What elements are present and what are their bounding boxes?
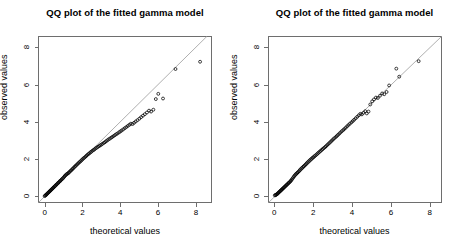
y-tick-label: 8 xyxy=(22,45,31,49)
y-tick-label: 0 xyxy=(22,194,31,198)
x-tick-label: 6 xyxy=(156,208,160,217)
x-tick-mark xyxy=(45,203,46,207)
y-tick-label: 0 xyxy=(251,194,260,198)
x-tick-label: 0 xyxy=(42,208,46,217)
y-tick-mark xyxy=(35,47,39,48)
x-tick-mark xyxy=(120,203,121,207)
data-point xyxy=(174,68,177,71)
y-tick-mark xyxy=(35,159,39,160)
x-tick-mark xyxy=(196,203,197,207)
x-tick-label: 8 xyxy=(194,208,198,217)
data-point xyxy=(394,67,397,70)
plot-area-left xyxy=(38,36,212,203)
y-tick-mark xyxy=(35,196,39,197)
data-point xyxy=(154,98,157,101)
x-tick-mark xyxy=(391,203,392,207)
x-tick-mark xyxy=(430,203,431,207)
x-tick-mark xyxy=(352,203,353,207)
data-point xyxy=(367,110,370,113)
y-tick-label: 8 xyxy=(251,45,260,49)
y-tick-label: 6 xyxy=(251,82,260,86)
data-point xyxy=(152,108,155,111)
x-tick-mark xyxy=(313,203,314,207)
x-axis-label-left: theoretical values xyxy=(38,226,212,236)
x-tick-label: 6 xyxy=(389,208,393,217)
x-tick-label: 2 xyxy=(311,208,315,217)
panel-title-left: QQ plot of the fitted gamma model xyxy=(38,7,212,18)
x-axis-label-right: theoretical values xyxy=(268,226,442,236)
qq-plot-figure: QQ plot of the fitted gamma model observ… xyxy=(0,0,455,241)
data-point xyxy=(385,91,388,94)
x-tick-mark xyxy=(158,203,159,207)
y-tick-mark xyxy=(264,196,268,197)
y-tick-label: 4 xyxy=(251,120,260,124)
y-tick-mark xyxy=(264,159,268,160)
data-point-group xyxy=(43,60,201,197)
data-point xyxy=(157,92,160,95)
data-point xyxy=(199,60,202,63)
x-tick-label: 0 xyxy=(272,208,276,217)
y-tick-mark xyxy=(264,85,268,86)
x-tick-mark xyxy=(274,203,275,207)
x-tick-label: 2 xyxy=(80,208,84,217)
y-tick-mark xyxy=(35,85,39,86)
data-point-group xyxy=(273,60,420,197)
qq-plot-panel-left: QQ plot of the fitted gamma model observ… xyxy=(0,0,228,241)
qq-scatter-canvas xyxy=(268,36,442,203)
y-tick-mark xyxy=(264,47,268,48)
y-tick-mark xyxy=(35,122,39,123)
x-tick-mark xyxy=(82,203,83,207)
data-point xyxy=(162,97,165,100)
plot-area-right xyxy=(268,36,442,203)
y-tick-label: 4 xyxy=(22,120,31,124)
qq-plot-panel-right: QQ plot of the fitted gamma model observ… xyxy=(228,0,455,241)
panel-title-right: QQ plot of the fitted gamma model xyxy=(268,7,442,18)
x-tick-label: 4 xyxy=(350,208,354,217)
data-point xyxy=(417,60,420,63)
x-tick-label: 8 xyxy=(428,208,432,217)
x-tick-label: 4 xyxy=(118,208,122,217)
qq-scatter-canvas xyxy=(38,36,212,203)
y-tick-label: 6 xyxy=(22,82,31,86)
y-tick-mark xyxy=(264,122,268,123)
y-tick-label: 2 xyxy=(251,157,260,161)
y-tick-label: 2 xyxy=(22,157,31,161)
